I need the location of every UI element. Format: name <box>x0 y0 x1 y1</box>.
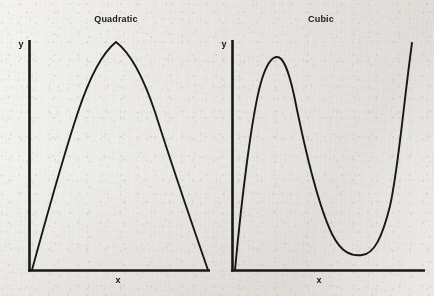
x-axis-label-cubic: x <box>316 275 321 285</box>
plot-cubic <box>0 0 434 296</box>
cubic-curve <box>235 43 412 270</box>
figure-canvas: Quadratic y x Cubic y x <box>0 0 434 296</box>
y-axis-label-cubic: y <box>221 39 226 49</box>
